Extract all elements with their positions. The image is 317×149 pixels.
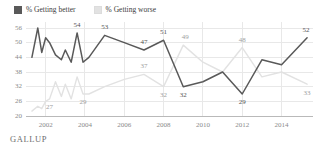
gallup-brand: GALLUP [10, 134, 47, 144]
data-point-label: 48 [234, 37, 250, 44]
x-axis-tick-label: 2008 [149, 122, 179, 129]
legend-label-better: % Getting better [26, 6, 76, 14]
x-axis-tick-label: 2004 [70, 122, 100, 129]
x-axis-tick-label: 2006 [109, 122, 139, 129]
data-point-label: 32 [175, 92, 191, 99]
x-axis-tick-label: 2002 [31, 122, 61, 129]
y-axis-tick-label: 50 [6, 39, 22, 46]
data-point-label: 27 [42, 104, 58, 111]
data-point-label: 52 [298, 27, 314, 34]
y-axis-tick-label: 26 [6, 98, 22, 105]
data-point-label: 53 [97, 24, 113, 31]
y-axis-tick-label: 32 [6, 83, 22, 90]
data-point-label: 32 [156, 92, 172, 99]
y-axis-tick-label: 44 [6, 54, 22, 61]
data-point-label: 29 [75, 99, 91, 106]
data-point-label: 49 [177, 34, 193, 41]
legend-item-better: % Getting better [14, 6, 76, 14]
x-axis-tick-label: 2012 [227, 122, 257, 129]
legend-swatch-worse [94, 6, 102, 14]
data-point-label: 54 [69, 22, 85, 29]
y-axis-tick-label: 56 [6, 25, 22, 32]
y-axis-tick-label: 20 [6, 113, 22, 120]
data-point-label: 29 [234, 99, 250, 106]
x-axis-tick-label: 2014 [267, 122, 297, 129]
data-point-label: 33 [299, 90, 315, 97]
data-point-label: 37 [136, 63, 152, 70]
legend-item-worse: % Getting worse [94, 6, 156, 14]
data-point-label: 47 [136, 39, 152, 46]
legend-label-worse: % Getting worse [106, 6, 156, 14]
y-axis-tick-label: 38 [6, 69, 22, 76]
legend-swatch-better [14, 6, 22, 14]
x-axis-tick-label: 2010 [188, 122, 218, 129]
chart-screenshot: % Getting better % Getting worse 5650443… [0, 0, 317, 149]
chart-legend: % Getting better % Getting worse [14, 3, 156, 17]
series-line [32, 28, 307, 94]
data-point-label: 51 [156, 29, 172, 36]
